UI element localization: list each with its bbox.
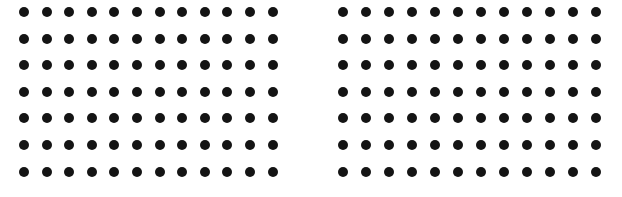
dot xyxy=(384,87,394,97)
dot xyxy=(591,87,601,97)
dot xyxy=(42,34,52,44)
dot xyxy=(87,113,97,123)
dot xyxy=(430,167,440,177)
dot xyxy=(109,167,119,177)
dot xyxy=(64,167,74,177)
dot xyxy=(384,113,394,123)
dot xyxy=(384,34,394,44)
dot xyxy=(245,113,255,123)
dot xyxy=(245,7,255,17)
dot xyxy=(200,34,210,44)
dot xyxy=(64,140,74,150)
dot xyxy=(476,167,486,177)
dot xyxy=(19,34,29,44)
dot xyxy=(268,87,278,97)
dot xyxy=(568,113,578,123)
dot xyxy=(430,34,440,44)
dot xyxy=(407,60,417,70)
dot xyxy=(222,34,232,44)
dot xyxy=(222,60,232,70)
dot xyxy=(200,140,210,150)
dot xyxy=(109,60,119,70)
dot xyxy=(545,7,555,17)
dot xyxy=(155,167,165,177)
dot xyxy=(268,140,278,150)
dot xyxy=(453,167,463,177)
dot xyxy=(245,167,255,177)
dot xyxy=(361,34,371,44)
dot xyxy=(64,34,74,44)
dot xyxy=(132,167,142,177)
dot xyxy=(545,167,555,177)
dot xyxy=(245,140,255,150)
dot xyxy=(268,7,278,17)
dot xyxy=(338,60,348,70)
dot xyxy=(591,7,601,17)
dot xyxy=(453,140,463,150)
dot xyxy=(132,34,142,44)
dot xyxy=(87,167,97,177)
dot xyxy=(155,113,165,123)
dot xyxy=(177,34,187,44)
dot xyxy=(499,60,509,70)
dot xyxy=(384,140,394,150)
dot xyxy=(200,87,210,97)
dot xyxy=(568,60,578,70)
dot xyxy=(476,87,486,97)
dot xyxy=(453,7,463,17)
dot xyxy=(522,7,532,17)
dot xyxy=(499,34,509,44)
dot xyxy=(19,167,29,177)
dot xyxy=(42,140,52,150)
dot xyxy=(568,34,578,44)
dot xyxy=(545,60,555,70)
dot xyxy=(476,140,486,150)
dot xyxy=(591,140,601,150)
dot xyxy=(476,34,486,44)
dot xyxy=(268,167,278,177)
dot xyxy=(222,113,232,123)
dot xyxy=(430,140,440,150)
dot xyxy=(568,7,578,17)
dot xyxy=(268,113,278,123)
dot xyxy=(384,60,394,70)
dot xyxy=(177,140,187,150)
dot xyxy=(109,140,119,150)
dot xyxy=(177,87,187,97)
dot xyxy=(384,7,394,17)
dot xyxy=(42,167,52,177)
dot xyxy=(476,7,486,17)
dot xyxy=(499,7,509,17)
dot xyxy=(545,140,555,150)
dot xyxy=(453,87,463,97)
dot xyxy=(42,7,52,17)
dot xyxy=(430,7,440,17)
dot xyxy=(132,140,142,150)
dot xyxy=(19,87,29,97)
dot xyxy=(522,34,532,44)
dot xyxy=(200,7,210,17)
dot xyxy=(338,113,348,123)
dot xyxy=(499,113,509,123)
dot xyxy=(19,60,29,70)
dot xyxy=(42,60,52,70)
dot xyxy=(64,87,74,97)
dot xyxy=(522,140,532,150)
dot xyxy=(87,60,97,70)
dot xyxy=(222,167,232,177)
dot xyxy=(222,87,232,97)
dot xyxy=(522,87,532,97)
dot xyxy=(109,7,119,17)
dot xyxy=(155,60,165,70)
dot xyxy=(268,34,278,44)
dot xyxy=(591,167,601,177)
dot xyxy=(64,60,74,70)
dot xyxy=(200,60,210,70)
dot xyxy=(132,87,142,97)
dot xyxy=(177,113,187,123)
dot xyxy=(132,60,142,70)
dot xyxy=(200,113,210,123)
dot xyxy=(430,87,440,97)
dot xyxy=(155,87,165,97)
dot xyxy=(407,7,417,17)
